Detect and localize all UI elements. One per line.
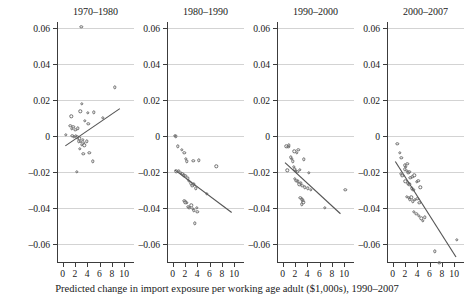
y-axis-tick-label: 0 (20, 131, 50, 142)
y-axis-tick-label: –0.06 (130, 239, 160, 250)
plot-area: 0.060.040.020–0.02–0.04–0.060246810 (57, 0, 134, 304)
panel-3: 1990–20000.060.040.020–0.02–0.04–0.06024… (243, 0, 360, 304)
regression-line (57, 0, 134, 304)
regression-line (167, 0, 244, 304)
y-axis-tick-label: –0.06 (240, 239, 270, 250)
y-axis-tick-label: 0.06 (130, 23, 160, 34)
y-axis-tick-label: –0.02 (130, 167, 160, 178)
panel-4: 2000–20070.060.040.020–0.02–0.04–0.06024… (353, 0, 468, 304)
plot-area: 0.060.040.020–0.02–0.04–0.060246810 (277, 0, 354, 304)
regression-line (387, 0, 464, 304)
y-axis-tick-label: 0.06 (350, 23, 380, 34)
panel-1: 1970–19800.060.040.020–0.02–0.04–0.06024… (23, 0, 140, 304)
y-axis-tick-label: 0.06 (20, 23, 50, 34)
y-axis-tick-label: 0 (240, 131, 270, 142)
y-axis-tick-label: 0.04 (240, 59, 270, 70)
regression-line (277, 0, 354, 304)
y-axis-tick-label: 0.04 (20, 59, 50, 70)
y-axis-tick-label: –0.02 (350, 167, 380, 178)
y-axis-tick-label: –0.02 (20, 167, 50, 178)
plot-area: 0.060.040.020–0.02–0.04–0.060246810 (167, 0, 244, 304)
y-axis-tick-label: –0.06 (350, 239, 380, 250)
y-axis-tick-label: –0.04 (130, 203, 160, 214)
y-axis-tick-label: 0.02 (350, 95, 380, 106)
y-axis-tick-label: 0.06 (240, 23, 270, 34)
y-axis-tick-label: –0.04 (20, 203, 50, 214)
y-axis-tick-label: 0 (130, 131, 160, 142)
y-axis-tick-label: 0.04 (350, 59, 380, 70)
panel-2: 1980–19900.060.040.020–0.02–0.04–0.06024… (133, 0, 250, 304)
y-axis-tick-label: –0.02 (240, 167, 270, 178)
y-axis-tick-label: 0 (350, 131, 380, 142)
y-axis-tick-label: –0.04 (240, 203, 270, 214)
y-axis-tick-label: 0.02 (240, 95, 270, 106)
y-axis-tick-label: –0.04 (350, 203, 380, 214)
plot-area: 0.060.040.020–0.02–0.04–0.060246810 (387, 0, 464, 304)
y-axis-tick-label: 0.02 (20, 95, 50, 106)
y-axis-tick-label: –0.06 (20, 239, 50, 250)
y-axis-tick-label: 0.02 (130, 95, 160, 106)
y-axis-tick-label: 0.04 (130, 59, 160, 70)
